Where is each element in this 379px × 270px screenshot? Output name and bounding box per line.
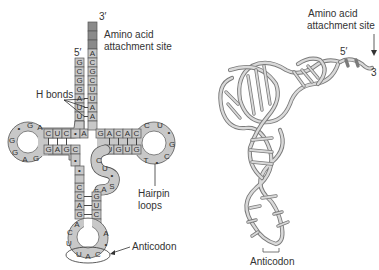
base: C [90, 76, 96, 85]
base: U [157, 121, 163, 130]
base: C [77, 183, 83, 192]
base: • [168, 128, 171, 137]
tertiary-structure-diagram: Amino acid attachment site 5′ 3 Anticodo… [220, 8, 377, 267]
base: A [90, 112, 96, 121]
base: C [67, 228, 73, 237]
base: A [90, 103, 96, 112]
base: C [90, 58, 96, 67]
base: U [55, 129, 61, 138]
base: C [94, 210, 100, 219]
base: G [9, 136, 15, 145]
base: G [63, 145, 69, 154]
terminal-cell [88, 40, 97, 49]
base: G [27, 121, 33, 130]
base: A [125, 129, 131, 138]
anticodon-label: Anticodon [250, 256, 294, 267]
base: C [46, 129, 52, 138]
ribbon-backbone [220, 59, 372, 244]
base: G [76, 85, 82, 94]
base: C [73, 145, 79, 154]
anticodon-arm: • C C A G G U C • A C U U A C A • [66, 166, 110, 263]
base: A [74, 220, 80, 229]
base: U [77, 112, 83, 121]
base: G [169, 140, 175, 149]
amino-acid-site-label: Amino acid [308, 8, 357, 19]
base: C [116, 129, 122, 138]
base: A [77, 94, 83, 103]
base: G [12, 148, 18, 157]
svg-text:•: • [111, 171, 114, 180]
anticodon-base: A [85, 252, 91, 261]
base: A [55, 145, 61, 154]
acceptor-stem-left-strand: G C G G A U U [75, 58, 88, 129]
base: C [134, 129, 140, 138]
base: C [77, 192, 83, 201]
terminal-cell [88, 31, 97, 40]
anticodon-bracket [263, 248, 279, 252]
base: A [90, 49, 96, 58]
svg-text:•: • [105, 240, 108, 249]
amino-acid-site-label: attachment site [104, 41, 172, 52]
anticodon-base: C [95, 250, 101, 259]
base: A [101, 185, 107, 194]
terminal-cell [88, 22, 97, 31]
h-bonds-label: H bonds [36, 89, 73, 100]
acceptor-stem-right-strand: A C G C U U A A [88, 22, 97, 121]
base: G [97, 129, 103, 138]
base: A [103, 229, 109, 238]
base: G [45, 145, 51, 154]
anticodon-label: Anticodon [132, 241, 176, 252]
base: U [102, 164, 108, 173]
base: C [77, 67, 83, 76]
cloverleaf-diagram: A C G C U U A A G C G G A U U [8, 11, 176, 263]
base: C [64, 129, 70, 138]
arrow-icon [110, 250, 115, 255]
base: G [115, 145, 121, 154]
base: A [22, 155, 28, 164]
base: G [76, 210, 82, 219]
base: A [37, 123, 43, 132]
base: A [107, 129, 113, 138]
base: G [33, 154, 39, 163]
base: G [76, 76, 82, 85]
base: • [18, 124, 21, 133]
base: G [76, 58, 82, 67]
svg-text:•: • [74, 156, 77, 165]
anticodon-base: U [76, 250, 82, 259]
base: A [81, 129, 87, 138]
hairpin-loops-label: Hairpin [138, 188, 170, 199]
three-prime-label: 3 [371, 67, 377, 78]
base: U [66, 239, 72, 248]
base: • [78, 166, 81, 175]
svg-text:•: • [74, 129, 77, 138]
arrow-down-icon [371, 50, 377, 56]
base: U [90, 94, 96, 103]
base: U [90, 85, 96, 94]
variable-loop: C U • G A S [93, 150, 115, 196]
base: T [144, 156, 149, 165]
base: A [77, 201, 83, 210]
base: C [144, 121, 150, 130]
five-prime-label: 5′ [340, 46, 348, 57]
base: S [109, 182, 114, 191]
base: C [164, 152, 170, 161]
five-prime-label: 5′ [74, 47, 82, 58]
base: G [93, 192, 99, 201]
hairpin-loops-label: loops [138, 200, 162, 211]
three-prime-label: 3′ [99, 11, 107, 22]
base: • [156, 158, 159, 167]
base: U [125, 145, 131, 154]
amino-acid-site-label: Amino acid [104, 29, 153, 40]
base: G [133, 145, 139, 154]
base: G [89, 67, 95, 76]
amino-acid-site-label: attachment site [307, 20, 375, 31]
base: U [94, 201, 100, 210]
